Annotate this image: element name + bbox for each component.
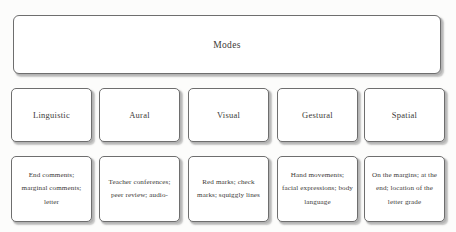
mode-box-spatial: Spatial	[364, 88, 445, 142]
mode-box-visual: Visual	[188, 88, 269, 142]
mode-box-label: Aural	[100, 110, 179, 120]
example-box-text: Teacher conferences; peer review; audio-	[104, 176, 175, 202]
mode-box-aural: Aural	[99, 88, 180, 142]
mode-box-gestural: Gestural	[277, 88, 358, 142]
example-box-text: End comments; marginal comments; letter	[16, 169, 87, 208]
example-box-linguistic: End comments; marginal comments; letter	[11, 156, 92, 222]
modes-diagram: Modes Linguistic Aural Visual Gestural S…	[0, 0, 456, 232]
mode-box-label: Linguistic	[12, 110, 91, 120]
mode-box-label: Spatial	[365, 110, 444, 120]
mode-box-linguistic: Linguistic	[11, 88, 92, 142]
example-box-text: Hand movements; facial expressions; body…	[282, 169, 353, 208]
example-box-spatial: On the margins; at the end; location of …	[364, 156, 445, 222]
example-box-text: Red marks; check marks; squiggly lines	[193, 176, 264, 202]
header-box-label: Modes	[14, 40, 440, 50]
header-box-modes: Modes	[13, 15, 441, 74]
example-box-text: On the margins; at the end; location of …	[369, 169, 440, 208]
mode-box-label: Gestural	[278, 110, 357, 120]
example-box-visual: Red marks; check marks; squiggly lines	[188, 156, 269, 222]
example-box-gestural: Hand movements; facial expressions; body…	[277, 156, 358, 222]
mode-box-label: Visual	[189, 110, 268, 120]
example-box-aural: Teacher conferences; peer review; audio-	[99, 156, 180, 222]
